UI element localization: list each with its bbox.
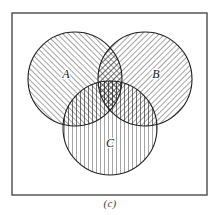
figure-caption: (c) <box>0 197 220 209</box>
set-a-label: A <box>61 67 70 81</box>
set-b-label: B <box>152 67 160 81</box>
venn-diagram-svg: A A B B C C <box>0 0 220 215</box>
set-c-label: C <box>106 136 115 150</box>
figure-root: A A B B C C (c) <box>0 0 220 215</box>
